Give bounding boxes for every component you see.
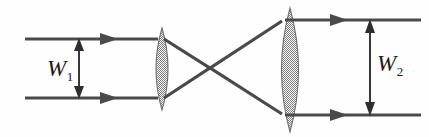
w2-symbol: W — [377, 51, 396, 76]
w1-symbol: W — [47, 56, 66, 81]
ray-bottom-to-crossing — [164, 68, 282, 114]
w1-label: W1 — [47, 57, 73, 80]
w2-subscript: 2 — [397, 64, 404, 79]
w2-label: W2 — [377, 52, 403, 75]
arrowhead-top-incoming — [100, 33, 118, 45]
optics-figure: W1 W2 — [0, 0, 429, 137]
ray-top-to-crossing — [164, 21, 282, 68]
w1-subscript: 1 — [67, 69, 74, 84]
arrowhead-bottom-incoming — [100, 92, 118, 104]
arrowhead-top-outgoing — [330, 14, 348, 26]
arrowhead-bottom-outgoing — [330, 109, 348, 121]
